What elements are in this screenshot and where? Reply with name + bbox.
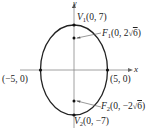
x-axis-label: x (134, 65, 138, 74)
focus-f1-point (73, 37, 76, 40)
f2-label: F2(0, −2√6) (101, 102, 145, 113)
vertex-v1-point (72, 23, 75, 26)
right-vertex-label: (5, 0) (110, 75, 131, 85)
f1-arrow-icon (76, 36, 81, 38)
v2-label: V2(0, −7) (74, 117, 109, 128)
vertex-right-point (106, 68, 109, 71)
y-axis-label: y (73, 0, 77, 8)
f1-label: F1(0, 2√6) (102, 29, 141, 40)
x-axis-arrow-icon (128, 68, 133, 72)
v1-label: V1(0, 7) (77, 13, 107, 24)
left-vertex-label: (−5, 0) (2, 75, 28, 85)
f2-arrow-icon (76, 101, 81, 103)
focus-f2-point (73, 100, 76, 103)
vertex-left-point (39, 68, 42, 71)
